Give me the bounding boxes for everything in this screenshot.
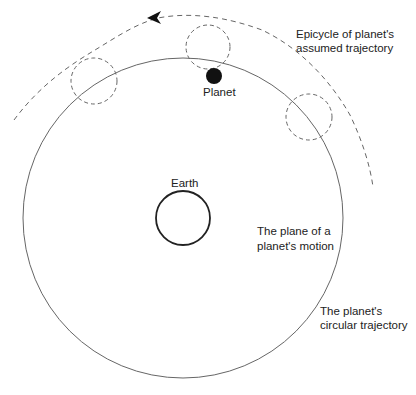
planet-dot [206,68,222,84]
epicycle-diagram [0,0,416,395]
epicycle-right [286,94,332,140]
epicycle-label-line1: Epicycle of planet's [296,27,394,41]
earth-label: Earth [171,176,199,190]
circular-trajectory-label-line1: The planet's [320,304,382,318]
planet-label: Planet [203,85,236,99]
plane-label-line1: The plane of a [257,224,331,238]
circular-trajectory-label-line2: circular trajectory [320,318,408,332]
epicycle-label-line2: assumed trajectory [296,41,393,55]
direction-arrow-icon [147,11,161,24]
planet-circular-trajectory [23,58,343,378]
earth-circle [156,191,210,245]
epicycle-top [186,25,230,69]
plane-label-line2: planet's motion [257,239,334,253]
